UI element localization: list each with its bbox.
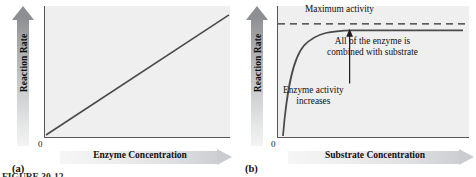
series-linear (45, 6, 230, 137)
annotation-enzyme-line1: All of the enzyme is (327, 36, 418, 47)
y-axis-arrow-b: Reaction Rate (246, 6, 268, 146)
annotation-enzyme-combined: All of the enzyme is combined with subst… (327, 36, 418, 58)
x-axis-label-a: Enzyme Concentration (60, 150, 232, 160)
series-saturation (278, 6, 469, 137)
x-axis-arrow-a: Enzyme Concentration (60, 149, 232, 166)
annotation-maximum-activity: Maximum activity (305, 4, 374, 15)
x-axis-label-b: Substrate Concentration (288, 150, 474, 160)
linear-trend-line (46, 15, 229, 135)
y-axis-arrow-a: Reaction Rate (12, 6, 34, 146)
origin-label-a: 0 (38, 139, 43, 149)
origin-label-b: 0 (271, 139, 276, 149)
plot-area-a (44, 6, 230, 138)
figure-panel-a: Reaction Rate 0 Enzyme Concentration (a) (0, 0, 238, 177)
annotation-enzyme-line2: combined with substrate (327, 47, 418, 58)
y-axis-label-b: Reaction Rate (253, 7, 263, 119)
figure-caption: FIGURE 30-12 (2, 172, 64, 177)
plot-area-b (277, 6, 469, 138)
panel-letter-b: (b) (245, 163, 258, 174)
figure-panel-b: Reaction Rate Maximum activity All of th… (238, 0, 476, 177)
y-axis-label-a: Reaction Rate (19, 7, 29, 119)
annotation-enzyme-activity-increases: Enzyme activity increases (283, 85, 344, 107)
annotation-activity-line2: increases (283, 96, 344, 107)
annotation-activity-line1: Enzyme activity (283, 85, 344, 96)
x-axis-arrow-b: Substrate Concentration (288, 149, 474, 166)
